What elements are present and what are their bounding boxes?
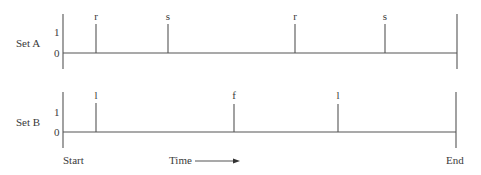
y-tick-0-label: 0 [54,47,60,59]
row-set-b: Set B 1 0 l f l [16,89,456,148]
time-arrow-icon [195,159,240,164]
end-label: End [446,154,464,166]
time-label: Time [169,154,192,166]
event-label: l [336,89,339,101]
timeline-diagram: Set A 1 0 r s r s Set B 1 0 l f l Start … [0,0,481,175]
row-set-a: Set A 1 0 r s r s [16,10,457,69]
event-label: l [94,89,97,101]
event-label: f [232,89,236,101]
event-label: r [94,10,98,22]
event-label: s [383,10,387,22]
row-label-set-a: Set A [16,37,40,49]
row-label-set-b: Set B [16,116,40,128]
start-label: Start [63,154,84,166]
event-label: s [166,10,170,22]
event-label: r [293,10,297,22]
y-tick-1-label: 1 [54,26,60,38]
y-tick-1-label: 1 [54,106,60,118]
y-tick-0-label: 0 [54,126,60,138]
